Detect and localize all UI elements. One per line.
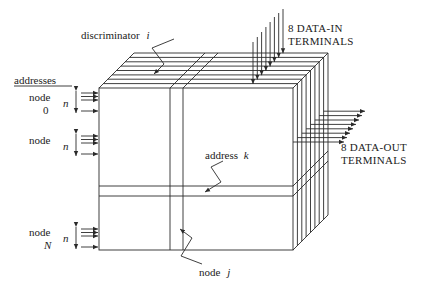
node-mid-address-inputs [81,136,98,154]
discriminator-pointer [152,39,174,74]
node0-address-inputs [81,93,98,111]
node0-n-label: n [63,97,69,109]
node-j-text: node [199,266,220,278]
right-face-layer-lines [297,57,323,245]
address-k-var: k [244,149,249,161]
node-j-label: node j [199,266,230,278]
node-mid-label: node [29,134,50,146]
nodeN-address-inputs [81,229,98,247]
discriminator-label: discriminator i [81,29,149,41]
data-in-line2: TERMINALS [288,35,354,47]
node-mid-n-label: n [63,140,69,152]
addresses-header: addresses [14,74,56,86]
address-k-pointer [205,161,223,192]
front-face [99,88,293,250]
address-k-label: address k [205,149,249,161]
nodeN-label-line2: N [44,239,51,251]
data-in-line1: 8 DATA-IN [288,22,343,34]
nodeN-n-label: n [63,232,69,244]
node0-label-line1: node [29,91,50,103]
data-out-arrows [293,111,365,142]
discriminator-text: discriminator [81,29,140,41]
discriminator-var: i [146,29,149,41]
data-out-line1: 8 DATA-OUT [341,141,407,153]
node0-label-line2: 0 [43,104,49,116]
top-face-layer-lines [103,57,323,83]
data-in-arrows [253,9,283,84]
data-out-line2: TERMINALS [341,154,407,166]
nodeN-label-line1: node [29,226,50,238]
ram-discriminator-cube-diagram: discriminator i 8 DATA-IN TERMINALS 8 DA… [0,0,425,292]
node-j-var: j [227,266,230,278]
address-k-text: address [205,149,238,161]
